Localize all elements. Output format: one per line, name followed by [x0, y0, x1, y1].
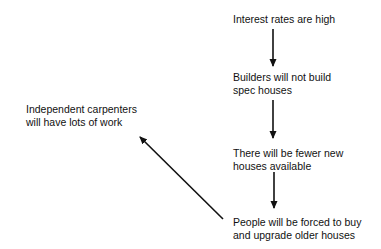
arrow-people-to-carpenters	[140, 137, 223, 219]
arrows-layer	[0, 0, 381, 249]
